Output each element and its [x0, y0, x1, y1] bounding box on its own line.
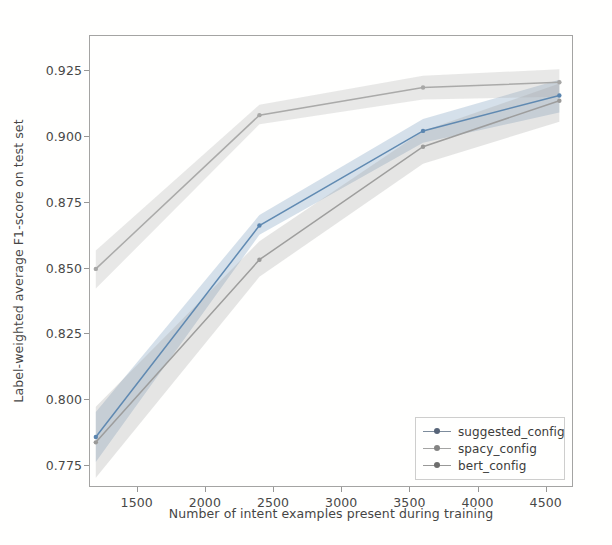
legend-line-marker-icon — [423, 460, 451, 472]
y-tick-label: 0.875 — [46, 194, 82, 209]
legend-line-marker-icon — [423, 443, 451, 455]
y-tick-mark — [84, 136, 89, 137]
y-tick-label: 0.800 — [46, 391, 82, 406]
data-point-marker[interactable] — [421, 144, 425, 148]
x-axis-title: Number of intent examples present during… — [169, 506, 493, 521]
y-tick-mark — [84, 268, 89, 269]
y-tick-label: 0.775 — [46, 457, 82, 472]
data-point-marker[interactable] — [557, 80, 561, 84]
x-tick-mark — [546, 487, 547, 492]
y-tick-mark — [84, 399, 89, 400]
x-tick-mark — [273, 487, 274, 492]
data-point-marker[interactable] — [94, 435, 98, 439]
data-point-marker[interactable] — [257, 223, 261, 227]
figure-canvas: 0.7750.8000.8250.8500.8750.9000.925 1500… — [0, 0, 612, 545]
data-point-marker[interactable] — [557, 98, 561, 102]
legend-line-marker-icon — [423, 426, 451, 438]
legend-item-suggested-config[interactable]: suggested_config — [423, 423, 557, 440]
legend-label-spacy-config: spacy_config — [458, 442, 537, 456]
x-tick-label: 1500 — [121, 495, 153, 510]
x-tick-mark — [409, 487, 410, 492]
data-point-marker[interactable] — [421, 129, 425, 133]
y-tick-label: 0.900 — [46, 129, 82, 144]
x-tick-mark — [341, 487, 342, 492]
data-point-marker[interactable] — [557, 93, 561, 97]
y-tick-mark — [84, 465, 89, 466]
data-point-marker[interactable] — [257, 113, 261, 117]
y-tick-mark — [84, 333, 89, 334]
data-point-marker[interactable] — [257, 257, 261, 261]
x-tick-mark — [205, 487, 206, 492]
x-tick-mark — [137, 487, 138, 492]
y-tick-mark — [84, 202, 89, 203]
y-tick-mark — [84, 70, 89, 71]
y-tick-label: 0.925 — [46, 63, 82, 78]
x-tick-mark — [478, 487, 479, 492]
data-point-marker[interactable] — [94, 267, 98, 271]
data-point-marker[interactable] — [94, 440, 98, 444]
y-axis-title: Label-weighted average F1-score on test … — [11, 119, 26, 402]
legend-item-bert-config[interactable]: bert_config — [423, 457, 557, 474]
chart-legend[interactable]: suggested_config spacy_config bert_confi… — [415, 417, 565, 480]
x-tick-label: 4500 — [530, 495, 562, 510]
y-tick-label: 0.850 — [46, 260, 82, 275]
data-point-marker[interactable] — [421, 85, 425, 89]
y-tick-label: 0.825 — [46, 326, 82, 341]
legend-label-suggested-config: suggested_config — [458, 425, 565, 439]
legend-label-bert-config: bert_config — [458, 459, 526, 473]
legend-item-spacy-config[interactable]: spacy_config — [423, 440, 557, 457]
